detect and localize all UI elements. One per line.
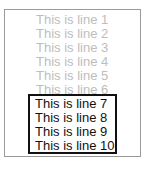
list-item-8[interactable]: This is line 8	[35, 111, 107, 125]
list-item-3[interactable]: This is line 3	[36, 41, 108, 55]
list-item-7[interactable]: This is line 7	[35, 97, 107, 111]
list-item-4[interactable]: This is line 4	[36, 55, 108, 69]
list-item-10[interactable]: This is line 10	[35, 139, 114, 153]
list-item-9[interactable]: This is line 9	[35, 125, 107, 139]
list-item-5[interactable]: This is line 5	[36, 69, 108, 83]
list-item-1[interactable]: This is line 1	[36, 13, 108, 27]
list-item-2[interactable]: This is line 2	[36, 27, 108, 41]
